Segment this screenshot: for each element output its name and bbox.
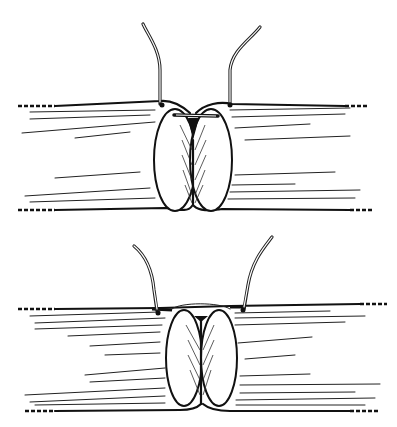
- bottom-panel: [18, 237, 387, 411]
- top-panel: [18, 24, 372, 211]
- anastomosis-illustration: [0, 0, 397, 427]
- illustration-svg: [0, 0, 397, 427]
